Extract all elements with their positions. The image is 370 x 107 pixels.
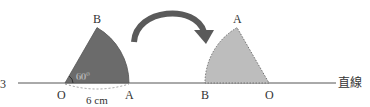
left-point-a-label: A [125,88,134,102]
margin-mark: 3 [0,77,6,91]
right-sector [205,28,269,83]
angle-label: 60° [76,71,90,82]
left-point-b-label: B [93,12,101,26]
left-sector [65,28,129,83]
left-point-o-label: O [57,88,66,102]
right-point-a-label: A [233,12,242,26]
radius-brace [65,84,129,89]
right-point-b-label: B [201,88,209,102]
line-label: 直線 [338,75,362,90]
rolling-sector-diagram: B O A 60° 6 cm A B O 直線 3 [0,0,370,107]
rotation-arrow-icon [134,13,204,42]
radius-label: 6 cm [86,94,108,106]
right-point-o-label: O [265,88,274,102]
arrow-head-icon [194,30,214,44]
